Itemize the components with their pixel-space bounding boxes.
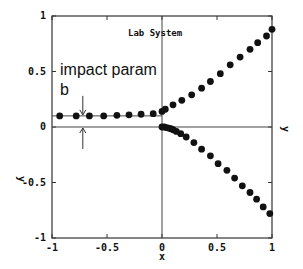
data-point bbox=[162, 106, 169, 113]
data-point bbox=[183, 134, 190, 141]
data-point bbox=[150, 110, 157, 117]
data-point bbox=[207, 152, 214, 159]
data-point bbox=[217, 70, 224, 77]
data-point bbox=[100, 113, 107, 120]
data-point bbox=[126, 111, 133, 118]
annotation-b: b bbox=[60, 81, 69, 98]
data-point bbox=[170, 101, 177, 108]
data-point bbox=[253, 196, 260, 203]
data-point bbox=[188, 91, 195, 98]
series-recoil-target bbox=[159, 124, 274, 217]
impact-parameter-arrows bbox=[80, 96, 86, 149]
data-point bbox=[266, 210, 273, 217]
scatter-chart: Lab System impact param b x y y -1-0.500… bbox=[0, 0, 303, 269]
data-point bbox=[254, 39, 261, 46]
data-point bbox=[86, 113, 93, 120]
x-tick-label: 1 bbox=[269, 242, 275, 253]
data-point bbox=[237, 54, 244, 61]
data-point bbox=[114, 112, 121, 119]
data-point bbox=[239, 182, 246, 189]
x-tick-label: 0.5 bbox=[208, 242, 226, 253]
data-point bbox=[207, 78, 214, 85]
y-tick-label: 1 bbox=[40, 10, 46, 21]
x-tick-label: -0.5 bbox=[95, 242, 119, 253]
data-point bbox=[269, 26, 276, 33]
y-tick-label: 0.5 bbox=[28, 66, 46, 77]
data-point bbox=[198, 146, 205, 153]
y-tick-label: -1 bbox=[34, 232, 46, 243]
x-tick-label: -1 bbox=[46, 242, 58, 253]
y-axis-title-right: y bbox=[280, 126, 291, 132]
annotation-impact-param: impact param bbox=[60, 61, 157, 78]
tick-labels: -1-0.500.51-1-0.500.51 bbox=[22, 10, 275, 253]
chart-title: Lab System bbox=[128, 28, 183, 38]
data-point bbox=[231, 175, 238, 182]
data-point bbox=[227, 61, 234, 68]
y-tick-label: -0.5 bbox=[22, 177, 46, 188]
series-scattered-projectile bbox=[162, 26, 275, 113]
data-point bbox=[56, 113, 63, 120]
data-point bbox=[215, 160, 222, 167]
data-point bbox=[247, 46, 254, 53]
data-point bbox=[263, 33, 270, 40]
data-point bbox=[260, 204, 267, 211]
data-point bbox=[178, 97, 185, 104]
data-point bbox=[224, 167, 231, 174]
data-point bbox=[247, 189, 254, 196]
series-incoming-projectile bbox=[56, 108, 165, 119]
data-point bbox=[191, 139, 198, 146]
x-tick-label: 0 bbox=[159, 242, 165, 253]
y-tick-label: 0 bbox=[40, 121, 46, 132]
data-point bbox=[138, 111, 145, 118]
data-points bbox=[56, 26, 275, 217]
data-point bbox=[198, 85, 205, 92]
data-point bbox=[73, 113, 80, 120]
